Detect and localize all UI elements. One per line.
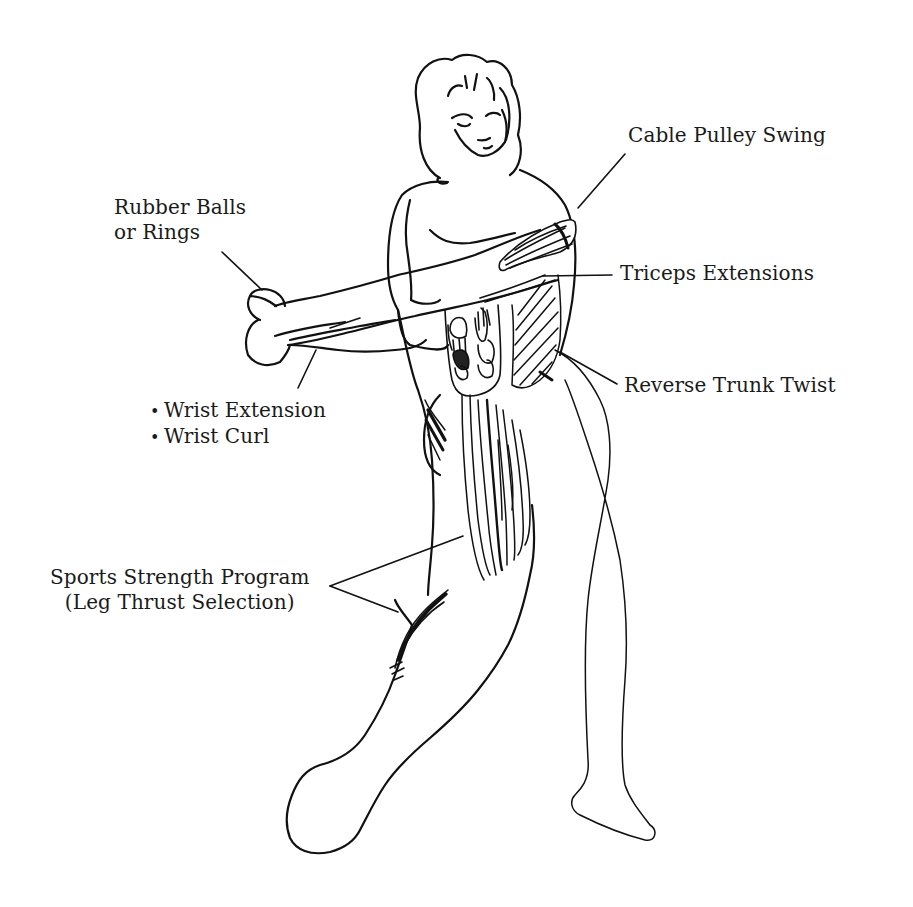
- label-sports-strength-line1: Sports Strength Program: [50, 565, 309, 590]
- label-sports-strength-program: Sports Strength Program (Leg Thrust Sele…: [50, 565, 309, 615]
- thigh-muscle-hatching: [424, 395, 530, 580]
- label-rubber-balls-line1: Rubber Balls: [114, 195, 246, 220]
- leader-wrist: [298, 350, 316, 388]
- leader-rubber-balls: [222, 252, 262, 290]
- leader-cable-pulley: [578, 154, 625, 208]
- abdominal-muscle-drawing: [445, 305, 501, 396]
- label-rubber-balls: Rubber Balls or Rings: [114, 195, 246, 245]
- label-reverse-trunk-twist: Reverse Trunk Twist: [624, 373, 836, 398]
- label-wrist-extension: Wrist Extension: [150, 398, 326, 424]
- exercise-diagram: Cable Pulley Swing Rubber Balls or Rings…: [0, 0, 913, 907]
- leader-sports-upper: [330, 536, 463, 586]
- legs-drawing: [287, 310, 534, 853]
- label-cable-pulley-swing: Cable Pulley Swing: [628, 123, 826, 148]
- label-rubber-balls-line2: or Rings: [114, 220, 246, 245]
- label-wrist-curl: Wrist Curl: [150, 424, 326, 450]
- leader-triceps: [543, 275, 612, 276]
- head-drawing: [416, 55, 521, 184]
- label-wrist-exercises: Wrist Extension Wrist Curl: [150, 398, 326, 450]
- leader-sports-lower: [330, 586, 398, 612]
- label-sports-strength-line2: (Leg Thrust Selection): [50, 590, 309, 615]
- torso-drawing: [388, 170, 575, 355]
- label-triceps-extensions: Triceps Extensions: [620, 261, 814, 286]
